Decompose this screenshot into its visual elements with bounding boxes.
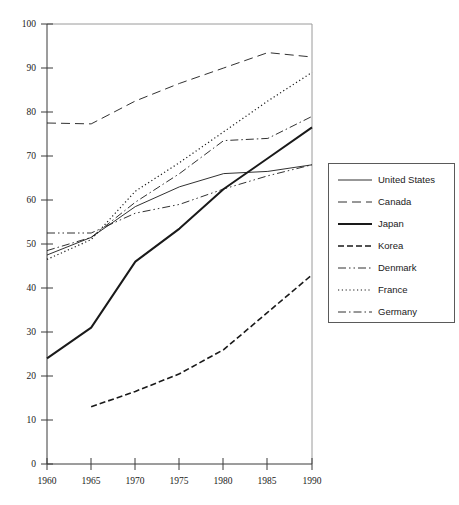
x-tick-label-1980: 1980 bbox=[214, 476, 233, 486]
legend-label: France bbox=[378, 284, 408, 295]
series-line-united-states bbox=[47, 165, 312, 255]
series-line-korea bbox=[91, 275, 312, 407]
y-tick-label-70: 70 bbox=[27, 151, 37, 161]
legend-entry-united-states[interactable]: United States bbox=[338, 174, 435, 185]
series-layer bbox=[47, 53, 312, 407]
legend-entries: United StatesCanadaJapanKoreaDenmarkFran… bbox=[338, 174, 435, 317]
legend-label: Korea bbox=[378, 240, 404, 251]
x-axis-ticks: 1960 1965 1970 1975 1980 1985 1990 bbox=[38, 458, 322, 486]
legend: United StatesCanadaJapanKoreaDenmarkFran… bbox=[329, 164, 455, 323]
legend-entry-germany[interactable]: Germany bbox=[338, 306, 417, 317]
y-tick-label-50: 50 bbox=[27, 239, 37, 249]
legend-entry-korea[interactable]: Korea bbox=[338, 240, 404, 251]
series-line-germany bbox=[47, 116, 312, 250]
y-tick-label-80: 80 bbox=[27, 107, 37, 117]
legend-label: Japan bbox=[378, 218, 404, 229]
y-tick-label-60: 60 bbox=[27, 195, 37, 205]
series-line-france bbox=[47, 72, 312, 259]
legend-label: United States bbox=[378, 174, 435, 185]
y-tick-label-30: 30 bbox=[27, 327, 37, 337]
x-tick-label-1990: 1990 bbox=[303, 476, 322, 486]
legend-label: Denmark bbox=[378, 262, 417, 273]
x-tick-label-1970: 1970 bbox=[126, 476, 145, 486]
legend-label: Germany bbox=[378, 306, 417, 317]
x-tick-label-1965: 1965 bbox=[82, 476, 101, 486]
y-tick-label-10: 10 bbox=[27, 415, 37, 425]
y-axis-ticks: 100 90 80 70 60 50 40 30 20 10 0 bbox=[22, 19, 53, 469]
y-tick-label-40: 40 bbox=[27, 283, 37, 293]
x-tick-label-1985: 1985 bbox=[258, 476, 277, 486]
legend-entry-japan[interactable]: Japan bbox=[338, 218, 404, 229]
y-tick-label-0: 0 bbox=[31, 459, 36, 469]
series-line-japan bbox=[47, 127, 312, 358]
y-tick-label-100: 100 bbox=[22, 19, 37, 29]
y-tick-label-20: 20 bbox=[27, 371, 37, 381]
y-tick-label-90: 90 bbox=[27, 63, 37, 73]
x-tick-label-1975: 1975 bbox=[170, 476, 189, 486]
series-line-denmark bbox=[47, 165, 312, 233]
series-line-canada bbox=[47, 53, 312, 124]
plot-frame bbox=[47, 24, 312, 464]
legend-label: Canada bbox=[378, 196, 412, 207]
x-tick-label-1960: 1960 bbox=[38, 476, 57, 486]
legend-entry-canada[interactable]: Canada bbox=[338, 196, 412, 207]
legend-entry-denmark[interactable]: Denmark bbox=[338, 262, 417, 273]
line-chart-figure: 100 90 80 70 60 50 40 30 20 10 0 1960 19… bbox=[0, 0, 459, 505]
legend-entry-france[interactable]: France bbox=[338, 284, 408, 295]
